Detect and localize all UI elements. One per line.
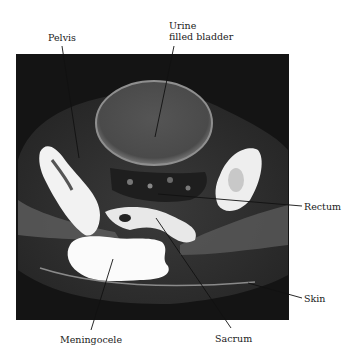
label-bladder-line1: Urine (169, 21, 196, 31)
meningocele-sac (68, 236, 169, 281)
ct-scan-image (0, 0, 362, 362)
label-skin: Skin (304, 294, 325, 304)
ct-scan-figure: Pelvis Urine filled bladder Rectum Skin … (0, 0, 362, 362)
label-rectum: Rectum (304, 202, 341, 212)
bladder (96, 81, 212, 165)
label-sacrum: Sacrum (215, 334, 252, 344)
label-meningocele: Meningocele (60, 335, 122, 345)
label-bladder-line2: filled bladder (169, 32, 233, 42)
label-pelvis: Pelvis (48, 33, 76, 43)
